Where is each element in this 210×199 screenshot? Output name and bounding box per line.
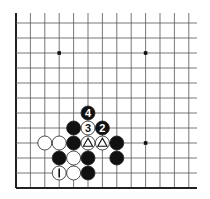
black-stone [110, 136, 124, 150]
white-stone: 3 [81, 121, 95, 135]
black-stone [52, 151, 66, 165]
white-stone [67, 166, 81, 180]
white-stone [38, 136, 52, 150]
white-stone-icon [38, 136, 52, 150]
move-number-label: 4 [85, 107, 92, 119]
black-stone-icon [81, 151, 95, 165]
move-number-label: 3 [85, 122, 91, 134]
white-stone-icon [67, 166, 81, 180]
black-stone [81, 151, 95, 165]
black-stone-icon [81, 166, 95, 180]
go-board: 432 [0, 0, 210, 199]
black-stone [110, 151, 124, 165]
black-stone: 2 [95, 121, 109, 135]
grid-lines [16, 13, 197, 188]
white-stone [52, 166, 66, 180]
star-point-icon [57, 51, 61, 55]
star-point-icon [144, 51, 148, 55]
white-stone [67, 151, 81, 165]
white-stone-icon [52, 136, 66, 150]
black-stone [67, 121, 81, 135]
black-stone-icon [67, 136, 81, 150]
white-stone [52, 136, 66, 150]
black-stone: 4 [81, 106, 95, 120]
white-stone [95, 136, 109, 150]
black-stone-icon [110, 151, 124, 165]
black-stone-icon [52, 151, 66, 165]
black-stone-icon [110, 136, 124, 150]
move-number-label: 2 [99, 122, 105, 134]
star-point-icon [144, 141, 148, 145]
stones: 432 [38, 106, 124, 180]
white-stone [81, 136, 95, 150]
black-stone-icon [67, 121, 81, 135]
white-stone-icon [67, 151, 81, 165]
black-stone [67, 136, 81, 150]
black-stone [81, 166, 95, 180]
